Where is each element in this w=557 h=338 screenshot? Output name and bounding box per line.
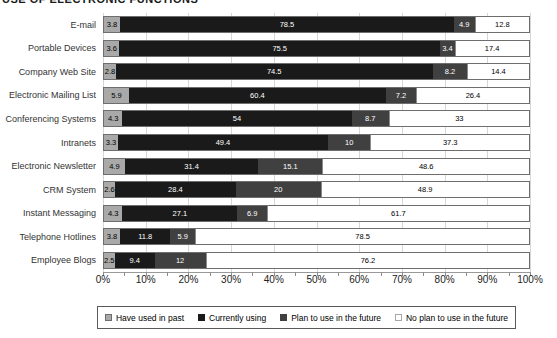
bar-value-label: 11.8 (138, 232, 152, 241)
stacked-bar: 3.811.85.978.5 (103, 228, 530, 245)
bar-segment: 33 (389, 111, 529, 126)
legend-label: Have used in past (116, 313, 184, 323)
category-label: Intranets (0, 131, 98, 155)
x-tick-label: 0% (96, 274, 110, 285)
bar-row: 3.675.53.417.4 (103, 37, 530, 61)
bar-value-label: 49.4 (216, 138, 231, 147)
category-label: Electronic Newsletter (0, 154, 98, 178)
bar-segment: 4.3 (104, 111, 122, 126)
bar-segment: 4.9 (104, 159, 125, 174)
bar-segment: 5.9 (104, 88, 129, 103)
bar-segment: 74.5 (116, 64, 433, 79)
bar-segment: 2.6 (104, 182, 115, 197)
bar-value-label: 8.2 (445, 67, 455, 76)
bar-row: 4.327.16.961.7 (103, 201, 530, 225)
bar-value-label: 33 (455, 114, 463, 123)
category-label: Portable Devices (0, 37, 98, 61)
x-tick-label: 50% (306, 274, 326, 285)
bar-value-label: 7.2 (396, 91, 406, 100)
bar-segment: 2.5 (104, 253, 115, 268)
bar-segment: 9.4 (115, 253, 155, 268)
bar-value-label: 27.1 (173, 209, 188, 218)
bar-value-label: 3.3 (106, 138, 116, 147)
bar-segment: 37.3 (370, 135, 529, 150)
bar-value-label: 4.3 (108, 114, 118, 123)
bar-segment: 28.4 (115, 182, 236, 197)
bar-segment: 3.8 (104, 229, 120, 244)
bar-segment: 7.2 (386, 88, 417, 103)
bar-value-label: 5.9 (111, 91, 121, 100)
bar-value-label: 4.9 (459, 20, 469, 29)
bar-segment: 60.4 (129, 88, 386, 103)
bar-value-label: 37.3 (443, 138, 458, 147)
bar-segment: 54 (122, 111, 352, 126)
bar-value-label: 48.9 (418, 185, 433, 194)
bar-row: 4.931.415.148.6 (103, 154, 530, 178)
bar-segment: 49.4 (118, 135, 328, 150)
bar-rows: 3.878.54.912.83.675.53.417.42.874.58.214… (103, 13, 530, 272)
bar-value-label: 78.5 (355, 232, 370, 241)
bar-segment: 20 (236, 182, 321, 197)
chart-title: USE OF ELECTRONIC FUNCTIONS (2, 0, 198, 5)
x-tick-label: 100% (517, 274, 543, 285)
bar-value-label: 3.4 (442, 44, 452, 53)
bar-segment: 17.4 (455, 41, 529, 56)
category-label: Conferencing Systems (0, 107, 98, 131)
bar-row: 2.874.58.214.4 (103, 60, 530, 84)
stacked-bar: 3.878.54.912.8 (103, 16, 530, 33)
bar-value-label: 78.5 (280, 20, 295, 29)
bar-value-label: 31.4 (184, 162, 199, 171)
bar-value-label: 10 (345, 138, 353, 147)
bar-value-label: 8.7 (365, 114, 375, 123)
x-tick-label: 70% (392, 274, 412, 285)
bar-row: 4.3548.733 (103, 107, 530, 131)
bar-value-label: 74.5 (267, 67, 282, 76)
x-tick-label: 30% (221, 274, 241, 285)
legend-label: Plan to use in the future (291, 313, 381, 323)
category-label: Employee Blogs (0, 248, 98, 272)
bar-segment: 3.6 (104, 41, 119, 56)
bar-segment: 8.2 (433, 64, 468, 79)
bar-value-label: 76.2 (361, 256, 376, 265)
stacked-bar: 4.3548.733 (103, 110, 530, 127)
stacked-bar: 5.960.47.226.4 (103, 87, 530, 104)
bar-row: 3.349.41037.3 (103, 131, 530, 155)
bar-value-label: 48.6 (419, 162, 434, 171)
bar-segment: 2.8 (104, 64, 116, 79)
legend-label: No plan to use in the future (406, 313, 508, 323)
bar-value-label: 3.8 (107, 232, 117, 241)
gridline (530, 13, 531, 272)
x-tick-label: 20% (178, 274, 198, 285)
bar-segment: 48.9 (321, 182, 529, 197)
bar-segment: 48.6 (322, 159, 529, 174)
bar-value-label: 6.9 (247, 209, 257, 218)
bar-value-label: 75.5 (272, 44, 287, 53)
bar-segment: 15.1 (258, 159, 322, 174)
bar-value-label: 54 (233, 114, 241, 123)
legend-swatch-icon (395, 314, 402, 321)
category-label: CRM System (0, 178, 98, 202)
bar-value-label: 61.7 (391, 209, 406, 218)
plot-area: 3.878.54.912.83.675.53.417.42.874.58.214… (103, 13, 530, 273)
stacked-bar: 2.874.58.214.4 (103, 63, 530, 80)
bar-segment: 4.3 (104, 206, 122, 221)
bar-segment: 78.5 (120, 17, 454, 32)
bar-segment: 75.5 (119, 41, 440, 56)
bar-segment: 12 (155, 253, 206, 268)
legend: Have used in pastCurrently usingPlan to … (97, 306, 516, 329)
bar-value-label: 12.8 (495, 20, 510, 29)
category-axis: E-mailPortable DevicesCompany Web SiteEl… (0, 13, 98, 272)
bar-value-label: 2.5 (104, 256, 114, 265)
category-label: E-mail (0, 13, 98, 37)
category-label: Electronic Mailing List (0, 84, 98, 108)
bar-segment: 12.8 (475, 17, 529, 32)
legend-item: Plan to use in the future (280, 313, 381, 323)
bar-row: 3.878.54.912.8 (103, 13, 530, 37)
legend-item: Currently using (198, 313, 266, 323)
bar-value-label: 3.6 (106, 44, 116, 53)
bar-segment: 11.8 (120, 229, 170, 244)
stacked-bar: 3.675.53.417.4 (103, 40, 530, 57)
legend-item: No plan to use in the future (395, 313, 508, 323)
bar-row: 3.811.85.978.5 (103, 225, 530, 249)
x-tick-label: 80% (435, 274, 455, 285)
